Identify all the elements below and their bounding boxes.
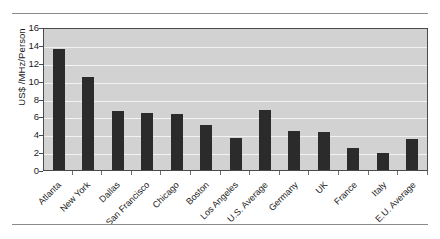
- y-tick-label: 4: [0, 130, 39, 140]
- bar: [377, 153, 389, 170]
- y-tick-label: 12: [0, 59, 39, 69]
- bar: [318, 132, 330, 170]
- x-label-cell: E.U. Average: [398, 176, 428, 236]
- bar-slot: [309, 29, 338, 170]
- bar: [112, 111, 124, 170]
- y-tick-label: 8: [0, 95, 39, 105]
- bar-slot: [191, 29, 220, 170]
- bar-slot: [398, 29, 427, 170]
- bar: [288, 131, 300, 170]
- bar: [259, 110, 271, 170]
- bar-slot: [132, 29, 161, 170]
- bar-slot: [103, 29, 132, 170]
- bar: [230, 138, 242, 170]
- chart-figure: US$ /MHz/Person 1614121086420 AtlantaNew…: [0, 0, 440, 239]
- y-tick-label: 10: [0, 77, 39, 87]
- x-label-cell: New York: [73, 176, 103, 236]
- plot-area: [43, 28, 428, 171]
- bar: [171, 114, 183, 170]
- y-tick-label: 14: [0, 41, 39, 51]
- x-tick-label: Atlanta: [37, 179, 65, 207]
- bar-slot: [250, 29, 279, 170]
- bottom-divider-rule: [12, 224, 428, 225]
- bar: [406, 139, 418, 170]
- bar: [53, 49, 65, 170]
- x-label-cell: Chicago: [161, 176, 191, 236]
- y-tick-label: 0: [0, 166, 39, 176]
- x-axis-tick-labels: AtlantaNew YorkDallasSan FranciscoChicag…: [43, 176, 428, 236]
- x-label-cell: UK: [309, 176, 339, 236]
- x-tick-label: Dallas: [98, 179, 123, 204]
- bar: [347, 148, 359, 170]
- bar-slot: [221, 29, 250, 170]
- bar: [200, 125, 212, 170]
- x-label-cell: France: [339, 176, 369, 236]
- bar-slot: [368, 29, 397, 170]
- bar: [82, 77, 94, 170]
- x-tick-label: Italy: [370, 179, 389, 198]
- x-tick-label: UK: [314, 179, 331, 196]
- bar-slot: [162, 29, 191, 170]
- y-tick-label: 6: [0, 112, 39, 122]
- bar-slot: [339, 29, 368, 170]
- bar-slot: [280, 29, 309, 170]
- bar-series: [44, 29, 427, 170]
- y-tick-label: 16: [0, 23, 39, 33]
- y-tick-label: 2: [0, 148, 39, 158]
- bar: [141, 113, 153, 170]
- top-divider-rule: [12, 13, 428, 14]
- bar-slot: [73, 29, 102, 170]
- x-label-cell: Germany: [280, 176, 310, 236]
- bar-slot: [44, 29, 73, 170]
